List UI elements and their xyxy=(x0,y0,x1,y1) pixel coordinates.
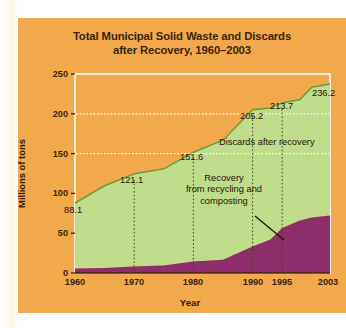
y-axis-title: Millions of tons xyxy=(16,129,27,219)
recovery-series-label-line3: composting xyxy=(160,196,288,207)
chart-figure: Total Municipal Solid Waste and Discards… xyxy=(0,0,346,328)
xtick-label-1970: 1970 xyxy=(114,277,154,287)
data-label-1980: 151.6 xyxy=(180,152,203,162)
xtick-label-1995: 1995 xyxy=(262,277,302,287)
ytick-label-50: 50 xyxy=(38,228,68,238)
ytick-label-250: 250 xyxy=(38,69,68,79)
xtick-label-1980: 1980 xyxy=(173,277,213,287)
xtick-label-1960: 1960 xyxy=(55,277,95,287)
data-label-1960: 88.1 xyxy=(64,205,82,215)
recovery-series-label-line1: Recovery xyxy=(160,173,288,184)
discards-series-label: Discards after recovery xyxy=(219,137,341,148)
x-axis-title: Year xyxy=(75,297,305,308)
xtick-label-2003: 2003 xyxy=(308,277,346,287)
data-label-1995: 213.7 xyxy=(270,101,293,111)
recovery-series-label: Recovery from recycling and composting xyxy=(160,173,288,207)
ytick-label-100: 100 xyxy=(38,188,68,198)
recovery-series-label-line2: from recycling and xyxy=(160,184,288,195)
data-label-1970: 121.1 xyxy=(120,175,143,185)
data-label-1990: 205.2 xyxy=(240,111,263,121)
data-label-2003: 236.2 xyxy=(312,88,335,98)
ytick-label-150: 150 xyxy=(38,149,68,159)
ytick-label-200: 200 xyxy=(38,109,68,119)
